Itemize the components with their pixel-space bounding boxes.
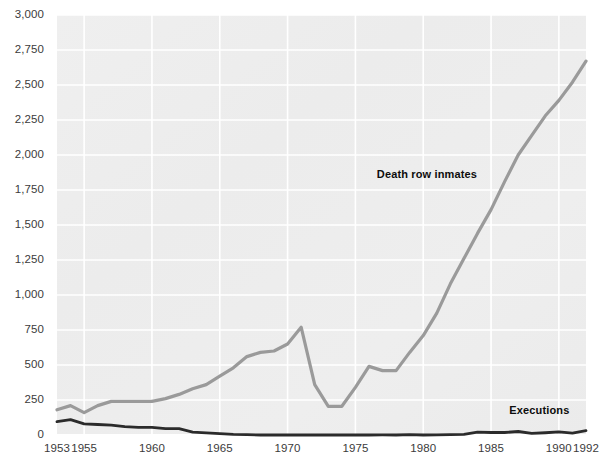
x-tick-label: 1970 [275, 443, 301, 455]
x-tick-label: 1965 [207, 443, 233, 455]
x-tick-label: 1990 [546, 443, 572, 455]
series-label-executions: Executions [509, 405, 569, 416]
x-tick-label: 1955 [71, 443, 97, 455]
series-label-death-row-inmates: Death row inmates [377, 169, 477, 180]
x-tick-label: 1953 [44, 443, 70, 455]
x-tick-label: 1992 [573, 443, 599, 455]
chart-container: 02505007501,0001,2501,5001,7502,0002,250… [0, 0, 604, 471]
x-tick-label: 1985 [478, 443, 504, 455]
x-tick-label: 1980 [410, 443, 436, 455]
x-axis-tick-labels: 1953195519601965197019751980198519901992 [0, 0, 604, 471]
x-tick-label: 1960 [139, 443, 165, 455]
x-tick-label: 1975 [342, 443, 368, 455]
